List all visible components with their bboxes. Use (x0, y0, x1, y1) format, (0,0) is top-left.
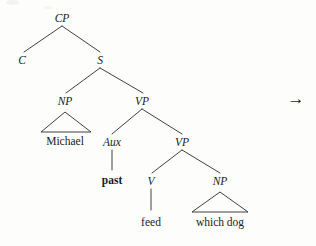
syntax-tree-figure: CP C S NP VP Aux VP V NP Michael past fe… (0, 0, 316, 246)
branch-cp-to-s (62, 26, 100, 52)
np-object-triangle (192, 192, 248, 212)
branch-vp-inner-to-v (152, 150, 182, 173)
tree-canvas: CP C S NP VP Aux VP V NP Michael past fe… (0, 0, 316, 246)
terminal-michael: Michael (46, 135, 84, 147)
branch-lines (24, 26, 220, 173)
branch-s-to-vp (100, 68, 143, 93)
node-vp-inner: VP (175, 136, 189, 148)
np-subject-triangle (41, 112, 91, 132)
node-np-object: NP (212, 175, 228, 187)
node-np-subject: NP (57, 95, 73, 107)
branch-vp-to-aux (112, 109, 142, 134)
rightwards-arrow-icon: → (288, 89, 305, 108)
branch-s-to-np (66, 68, 100, 93)
terminal-past: past (102, 174, 123, 187)
node-vp-outer: VP (135, 95, 149, 107)
node-labels: CP C S NP VP Aux VP V NP (18, 12, 227, 187)
node-c: C (18, 54, 26, 66)
triangles (41, 112, 248, 212)
node-s: S (97, 54, 103, 66)
terminal-which-dog: which dog (196, 216, 244, 229)
node-v: V (147, 175, 156, 187)
node-aux: Aux (102, 136, 122, 148)
terminal-feed: feed (141, 216, 161, 228)
node-cp: CP (55, 12, 70, 24)
branch-vp-inner-to-np (182, 150, 220, 173)
branch-cp-to-c (24, 26, 62, 52)
branch-vp-to-vp (142, 109, 182, 134)
